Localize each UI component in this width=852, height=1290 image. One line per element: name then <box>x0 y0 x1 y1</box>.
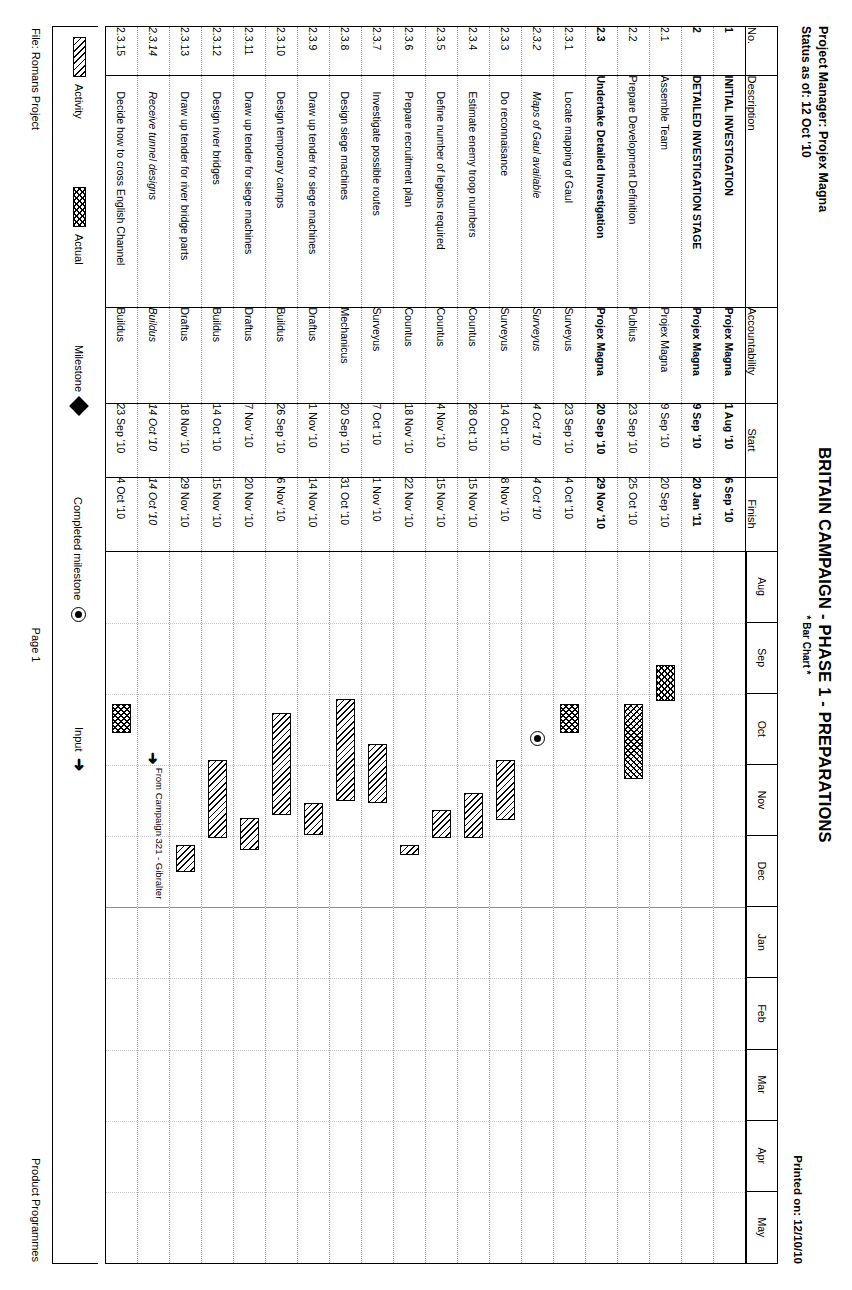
cell-finish: 15 Nov '10 <box>426 477 458 551</box>
gantt-bar-activity[interactable] <box>208 760 227 838</box>
cell-description: Design siege machines <box>330 75 362 307</box>
timeline-gridline <box>330 836 361 837</box>
cell-no: 2.3.8 <box>330 27 362 75</box>
table-row[interactable]: 2.3.2Maps of Gaul availableSurveyus4 Oct… <box>522 27 554 1263</box>
timeline-gridline <box>682 765 713 766</box>
table-row[interactable]: 2.3.12Design river bridgesBuildus14 Oct … <box>202 27 234 1263</box>
cell-description: DETAILED INVESTIGATION STAGE <box>682 75 714 307</box>
table-row[interactable]: 2.1Assemble TeamProjex Magna9 Sep '1020 … <box>650 27 682 1263</box>
gantt-bar-activity[interactable] <box>176 845 195 872</box>
cell-finish: 4 Oct '10 <box>554 477 586 551</box>
table-row[interactable]: 2.3.10Design temporary campsBuildus26 Se… <box>266 27 298 1263</box>
timeline-gridline <box>458 907 489 908</box>
timeline-gridline <box>586 1050 617 1051</box>
cell-timeline <box>714 551 746 1263</box>
timeline-gridline <box>554 623 585 624</box>
cell-finish: 25 Oct '10 <box>618 477 650 551</box>
timeline-gridline <box>106 694 137 695</box>
gantt-bar-actual[interactable] <box>112 704 131 732</box>
table-row[interactable]: 2.3.1Locate mapping of GaulSurveyus23 Se… <box>554 27 586 1263</box>
gantt-bar-activity[interactable] <box>240 818 259 850</box>
table-row[interactable]: 2.3.15Decide how to cross English Channe… <box>106 27 138 1263</box>
timeline-gridline <box>426 765 457 766</box>
completed-milestone-circle-icon <box>71 607 86 622</box>
timeline-gridline <box>490 1121 521 1122</box>
gantt-bar-activity[interactable] <box>368 744 387 804</box>
cell-description: Define number of legions required <box>426 75 458 307</box>
table-row[interactable]: 2.3.6Prepare recruitment planCountus18 N… <box>394 27 426 1263</box>
cell-no: 2.3.2 <box>522 27 554 75</box>
gantt-bar-activity[interactable] <box>464 793 483 837</box>
timeline-gridline <box>490 836 521 837</box>
cell-finish: 31 Oct '10 <box>330 477 362 551</box>
table-row[interactable]: 2.3.3Do reconnaisanceSurveyus14 Oct '108… <box>490 27 522 1263</box>
cell-accountability: Projex Magna <box>682 307 714 403</box>
gantt-input-arrow-icon[interactable]: ➜ <box>147 752 160 765</box>
timeline-month-apr: Apr <box>747 1121 777 1192</box>
timeline-month-nov: Nov <box>747 765 777 836</box>
timeline-gridline <box>362 1050 393 1051</box>
timeline-gridline <box>234 765 265 766</box>
timeline-row <box>234 552 265 1264</box>
gantt-bar-activity[interactable] <box>272 713 291 815</box>
cell-no: 2.3.13 <box>170 27 202 75</box>
timeline-gridline <box>234 907 265 908</box>
table-row[interactable]: 2.3Undertake Detailed InvestigationProje… <box>586 27 618 1263</box>
cell-no: 2.3 <box>586 27 618 75</box>
table-row[interactable]: 2.3.7Investigate possible routesSurveyus… <box>362 27 394 1263</box>
printed-on-label: Printed on: 12/10/10 <box>792 1155 804 1264</box>
cell-no: 1 <box>714 27 746 75</box>
table-row[interactable]: 2.3.9Draw up tender for siege machinesDr… <box>298 27 330 1263</box>
timeline-row <box>682 552 713 1264</box>
cell-timeline <box>554 551 586 1263</box>
gantt-bar-activity[interactable] <box>400 845 419 856</box>
timeline-gridline <box>266 836 297 837</box>
cell-description: Prepare recruitment plan <box>394 75 426 307</box>
table-row[interactable]: 2.2Prepare Development DefinitionPublius… <box>618 27 650 1263</box>
timeline-month-oct: Oct <box>747 694 777 765</box>
gantt-bar-actual[interactable] <box>560 704 579 732</box>
table-row[interactable]: 2.3.14Receive tunnel designsBuildus14 Oc… <box>138 27 170 1263</box>
table-row[interactable]: 2.3.13Draw up tender for river bridge pa… <box>170 27 202 1263</box>
cell-no: 2.3.3 <box>490 27 522 75</box>
timeline-gridline <box>138 765 169 766</box>
cell-description: Design river bridges <box>202 75 234 307</box>
table-row[interactable]: 2.3.11Draw up tender for siege machinesD… <box>234 27 266 1263</box>
gantt-bar-activity[interactable] <box>432 810 451 837</box>
timeline-gridline <box>394 907 425 908</box>
timeline-gridline <box>138 694 169 695</box>
gantt-completed-milestone-icon[interactable] <box>530 731 545 746</box>
timeline-gridline <box>394 765 425 766</box>
cell-description: INITIAL INVESTIGATION <box>714 75 746 307</box>
table-row[interactable]: 2.3.5Define number of legions requiredCo… <box>426 27 458 1263</box>
table-row[interactable]: 2DETAILED INVESTIGATION STAGEProjex Magn… <box>682 27 714 1263</box>
gantt-chart-sheet: Project Manager: Projex Magna Status as … <box>0 0 852 1290</box>
table-row[interactable]: 1INITIAL INVESTIGATIONProjex Magna1 Aug … <box>714 27 746 1263</box>
timeline-gridline <box>138 1192 169 1193</box>
gantt-bar-activity[interactable] <box>336 699 355 801</box>
cell-no: 2.3.9 <box>298 27 330 75</box>
timeline-gridline <box>554 907 585 908</box>
gantt-bar-activity[interactable] <box>304 803 323 835</box>
timeline-gridline <box>234 1050 265 1051</box>
timeline-gridline <box>522 1192 553 1193</box>
cell-no: 2.3.15 <box>106 27 138 75</box>
gantt-bar-activity[interactable] <box>496 760 515 820</box>
cell-start: 23 Sep '10 <box>106 403 138 477</box>
cell-start: 4 Oct '10 <box>522 403 554 477</box>
timeline-gridline <box>426 1050 457 1051</box>
table-row[interactable]: 2.3.4Estimate enemy troop numbersCountus… <box>458 27 490 1263</box>
cell-timeline <box>298 551 330 1263</box>
timeline-row <box>714 552 745 1264</box>
timeline-gridline <box>586 623 617 624</box>
gantt-bar-actual[interactable] <box>656 665 675 701</box>
page-title: BRITAIN CAMPAIGN - PHASE 1 - PREPARATION… <box>815 26 834 1264</box>
timeline-row <box>202 552 233 1264</box>
cell-no: 2.3.10 <box>266 27 298 75</box>
table-row[interactable]: 2.3.8Design siege machinesMechanicus20 S… <box>330 27 362 1263</box>
timeline-gridline <box>202 978 233 979</box>
page-rotation-wrapper: Project Manager: Projex Magna Status as … <box>0 0 852 1290</box>
gantt-bar-actual[interactable] <box>624 704 643 779</box>
timeline-gridline <box>618 623 649 624</box>
timeline-gridline <box>202 694 233 695</box>
